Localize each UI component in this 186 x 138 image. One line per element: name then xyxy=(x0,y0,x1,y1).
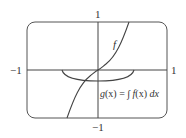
y-max-label: 1 xyxy=(95,8,101,20)
dx-symbol: dx xyxy=(147,88,160,99)
g-arg: (x) xyxy=(105,88,117,100)
g-curve-label: g(x) = ∫ f(x) dx xyxy=(100,88,160,100)
x-max-label: 1 xyxy=(171,64,177,76)
x-min-label: −1 xyxy=(10,64,22,76)
f-curve-label: f xyxy=(113,38,118,50)
function-graph: −1 1 1 −1 f g(x) = ∫ f(x) dx xyxy=(0,0,186,138)
f-arg: (x) xyxy=(135,88,147,100)
equals-sign: = xyxy=(117,88,128,99)
y-min-label: −1 xyxy=(92,121,104,133)
